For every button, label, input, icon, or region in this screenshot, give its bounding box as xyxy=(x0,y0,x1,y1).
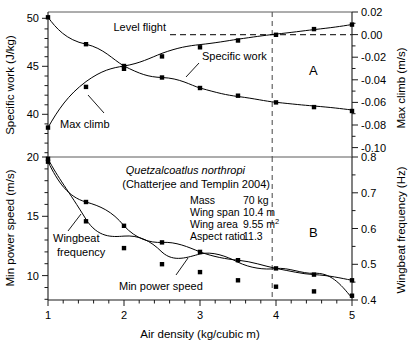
panel-a-ytick-50: 50 xyxy=(27,12,39,24)
panel-a-left-ticks xyxy=(42,18,48,152)
panel-b-ytick-10: 10 xyxy=(27,270,39,282)
spec-label-wing-span: Wing span xyxy=(190,206,240,218)
specific-work-curve xyxy=(48,17,352,110)
level-flight-label: Level flight xyxy=(113,21,166,33)
panel-a-y2tick-5: -0.08 xyxy=(361,119,386,131)
xtick-4: 4 xyxy=(273,309,279,321)
max-climb-markers xyxy=(46,22,354,129)
panel-b-y2tick-3: 0.5 xyxy=(361,258,376,270)
figure-container: 50 45 40 Specific work (J/kg) 0.02 xyxy=(0,0,415,345)
panel-b-right-axis-title: Wingbeat frequency (Hz) xyxy=(395,166,407,293)
min-power-speed-leader xyxy=(176,258,188,275)
panel-a-y2tick-1: 0.00 xyxy=(361,29,382,41)
species-info-box: Quetzalcoatlus northropi (Chatterjee and… xyxy=(122,164,279,242)
xtick-1: 1 xyxy=(45,309,51,321)
min-power-speed-label: Min power speed xyxy=(119,280,203,292)
panel-b-y2tick-2: 0.6 xyxy=(361,223,376,235)
wingbeat-frequency-leader xyxy=(68,214,81,231)
panel-a-y2tick-0: 0.02 xyxy=(361,6,382,18)
spec-value-wing-area-exponent: 2 xyxy=(275,217,279,226)
max-climb-leader xyxy=(88,95,104,113)
dual-panel-line-chart: 50 45 40 Specific work (J/kg) 0.02 xyxy=(0,0,415,345)
panel-a-ytick-45: 45 xyxy=(27,60,39,72)
panel-b-left-axis-title: Min power speed (m/s) xyxy=(4,169,16,286)
panel-a: 50 45 40 Specific work (J/kg) 0.02 xyxy=(4,6,407,157)
spec-value-mass: 70 kg xyxy=(243,194,269,206)
panel-a-right-ticks xyxy=(352,12,358,148)
spec-label-wing-area: Wing area xyxy=(190,218,238,230)
panel-a-y2tick-2: -0.02 xyxy=(361,51,386,63)
max-climb-curve xyxy=(48,25,352,128)
spec-label-aspect-ratio: Aspect ratio xyxy=(190,230,246,242)
species-citation: (Chatterjee and Templin 2004) xyxy=(122,178,270,190)
species-name: Quetzalcoatlus northropi xyxy=(126,164,246,176)
spec-value-wing-area: 9.55 m xyxy=(243,218,275,230)
x-axis-title: Air density (kg/cubic m) xyxy=(140,328,260,340)
wingbeat-frequency-label-1: Wingbeat xyxy=(53,232,99,244)
xtick-3: 3 xyxy=(197,309,203,321)
max-climb-label: Max climb xyxy=(60,118,110,130)
panel-b-ytick-15: 15 xyxy=(27,210,39,222)
panel-b: 20 15 10 Min power speed (m/s) 0.8 0.7 0… xyxy=(4,151,407,340)
panel-b-y2tick-0: 0.8 xyxy=(361,151,376,163)
x-axis-ticks xyxy=(48,300,352,306)
spec-value-wing-span: 10.4 m xyxy=(243,206,275,218)
panel-a-y2tick-4: -0.06 xyxy=(361,96,386,108)
panel-b-y2tick-4: 0.4 xyxy=(361,294,376,306)
spec-value-aspect-ratio: 11.3 xyxy=(243,230,263,242)
panel-a-left-axis-title: Specific work (J/kg) xyxy=(4,35,16,135)
panel-a-ytick-40: 40 xyxy=(27,108,39,120)
panel-b-letter: B xyxy=(309,225,318,240)
xtick-2: 2 xyxy=(121,309,127,321)
panel-b-y2tick-1: 0.7 xyxy=(361,187,376,199)
specific-work-leader xyxy=(186,63,199,77)
panel-a-y2tick-3: -0.04 xyxy=(361,74,386,86)
specific-work-label: Specific work xyxy=(202,50,267,62)
panel-b-ytick-20: 20 xyxy=(27,151,39,163)
spec-label-mass: Mass xyxy=(190,194,215,206)
panel-a-letter: A xyxy=(309,63,318,78)
panel-a-right-axis-title: Max climb (m/s) xyxy=(395,47,407,128)
xtick-5: 5 xyxy=(349,309,355,321)
specific-work-markers xyxy=(46,15,354,113)
panel-b-left-ticks xyxy=(42,157,48,299)
wingbeat-frequency-label-2: frequency xyxy=(57,246,106,258)
